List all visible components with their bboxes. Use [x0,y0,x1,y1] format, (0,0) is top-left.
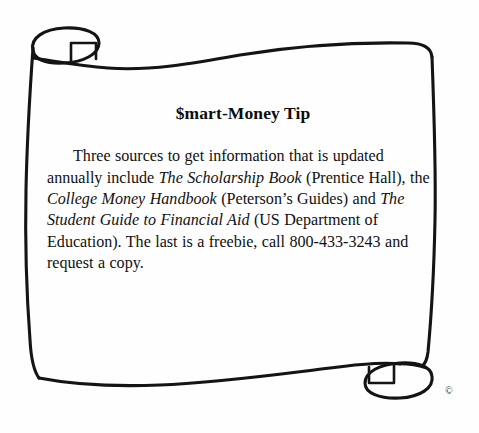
body-segment-2: (Prentice Hall), the [302,169,430,186]
book-title-college-money-handbook: College Money Handbook [47,190,217,207]
scroll-tip-page: $mart-Money Tip Three sources to get inf… [0,0,479,433]
tip-content: $mart-Money Tip Three sources to get inf… [47,104,439,274]
copyright-icon: © [445,386,453,396]
body-segment-3: (Peterson’s Guides) and [217,190,380,207]
tip-body-paragraph: Three sources to get information that is… [47,145,439,273]
book-title-scholarship-book: The Scholarship Book [159,169,302,186]
page-title: $mart-Money Tip [47,104,439,123]
